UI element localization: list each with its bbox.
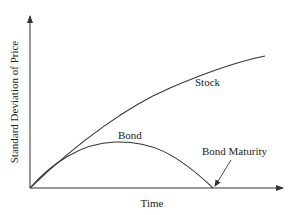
- stock-curve: [30, 56, 265, 188]
- y-axis-label: Standard Deviation of Price: [8, 41, 20, 164]
- bond-curve: [30, 142, 213, 188]
- volatility-diagram: Stock Bond Bond Maturity Time Standard D…: [0, 0, 297, 215]
- bond-label: Bond: [118, 129, 142, 141]
- x-axis-label: Time: [141, 197, 164, 209]
- stock-label: Stock: [195, 76, 221, 88]
- bond-maturity-arrow: [215, 160, 231, 186]
- bond-maturity-label: Bond Maturity: [202, 145, 268, 157]
